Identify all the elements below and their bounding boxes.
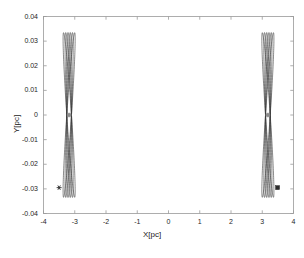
y-axis-label: Y[pc] xyxy=(13,115,21,133)
y-tick-label: -0.01 xyxy=(6,136,38,143)
x-tick-label: -4 xyxy=(34,218,54,225)
x-tick-label: -1 xyxy=(127,218,147,225)
x-tick-label: 1 xyxy=(190,218,210,225)
y-tick-label: -0.03 xyxy=(6,185,38,192)
y-tick-label: 0 xyxy=(6,111,38,118)
x-tick-label: 0 xyxy=(159,218,179,225)
y-tick-label: 0.02 xyxy=(6,62,38,69)
figure-canvas: -0.04-0.03-0.02-0.0100.010.020.030.04 -4… xyxy=(0,0,304,258)
y-tick-label: -0.04 xyxy=(6,210,38,217)
y-tick-label: 0.03 xyxy=(6,37,38,44)
x-tick-label: 3 xyxy=(252,218,272,225)
y-tick-label: -0.02 xyxy=(6,160,38,167)
x-axis-label: X[pc] xyxy=(0,231,304,239)
y-tick-label: 0.01 xyxy=(6,86,38,93)
x-tick-label: -2 xyxy=(96,218,116,225)
y-tick-label: 0.04 xyxy=(6,13,38,20)
orbit-curves xyxy=(63,33,274,198)
x-tick-label: 4 xyxy=(284,218,304,225)
axes-frame xyxy=(44,17,294,214)
x-tick-label: -3 xyxy=(65,218,85,225)
orbit-markers xyxy=(57,113,280,190)
x-tick-label: 2 xyxy=(221,218,241,225)
axis-ticks xyxy=(44,17,294,214)
